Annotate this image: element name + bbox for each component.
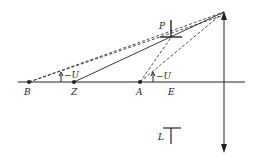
label-B: B [23, 87, 31, 97]
rays-from-A [140, 12, 224, 82]
label-E: E [167, 87, 175, 97]
point-Z [72, 80, 76, 84]
marker-L [163, 128, 181, 144]
label-Z: Z [70, 87, 78, 97]
label-angle-U-right: −U [156, 71, 172, 81]
point-B [27, 80, 31, 84]
point-A [138, 80, 142, 84]
ray-from-Z [74, 12, 224, 82]
label-L: L [157, 132, 164, 142]
rays-from-B [29, 12, 224, 82]
label-angle-U-left: −U [64, 70, 80, 80]
optics-ray-diagram: B Z A E P L −U −U [0, 0, 256, 161]
label-P: P [158, 21, 166, 31]
label-A: A [135, 87, 143, 97]
arrow-down-icon [221, 144, 227, 153]
